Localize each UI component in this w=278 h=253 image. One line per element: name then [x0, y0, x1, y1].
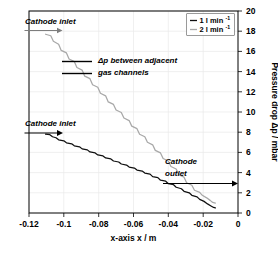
y-tick-label-4: 4	[246, 168, 251, 178]
x-tick-label-4: -0.04	[159, 219, 179, 229]
x-tick-label-6: 0	[236, 219, 241, 229]
annotation-cathode-inlet-upper: Cathode inlet	[25, 17, 76, 26]
y-tick-label-18: 18	[246, 26, 256, 36]
x-tick-label-5: -0.02	[194, 219, 214, 229]
y-tick-label-16: 16	[246, 46, 256, 56]
x-tick-label-3: -0.06	[124, 219, 144, 229]
x-tick-label-1: -0.1	[56, 219, 71, 229]
y-tick-label-6: 6	[246, 147, 251, 157]
series-line-1-l-min	[46, 134, 216, 208]
y-tick-label-20: 20	[246, 6, 256, 16]
y-tick-label-12: 12	[246, 87, 256, 97]
legend-label-2-l-min: 2 l min	[200, 25, 224, 34]
x-tick-label-2: -0.08	[89, 219, 109, 229]
legend-sup-1-l-min: -1	[226, 15, 231, 21]
y-tick-label-14: 14	[246, 67, 256, 77]
x-tick-labels: -0.12 -0.1 -0.08 -0.06 -0.04 -0.02 0	[19, 219, 240, 229]
annotation-cathode-outlet-line2: outlet	[165, 169, 187, 178]
legend-sup-2-l-min: -1	[226, 24, 231, 30]
annotation-delta-p-line1: Δp between adjacent	[97, 56, 178, 65]
y-tick-label-2: 2	[246, 188, 251, 198]
annotation-delta-p-line2: gas channels	[97, 68, 149, 77]
legend-label-1-l-min: 1 l min	[200, 16, 224, 25]
arrow-cathode-inlet-upper	[25, 28, 63, 33]
y-tickmarks	[238, 11, 242, 213]
x-tick-label-0: -0.12	[19, 219, 39, 229]
y-tick-labels: 20 18 16 14 12 10 8 6 4 2 0	[246, 6, 256, 218]
y-tick-label-0: 0	[246, 208, 251, 218]
arrow-cathode-inlet-lower	[25, 130, 64, 136]
y-axis-title: Pressure drop Δp / mbar	[270, 62, 278, 162]
x-tickmarks	[29, 213, 238, 217]
chart-container: 1 l min -1 2 l min -1 Cathode inlet Δp b…	[0, 0, 278, 253]
annotation-cathode-inlet-lower: Cathode inlet	[25, 119, 76, 128]
pressure-drop-chart: 1 l min -1 2 l min -1 Cathode inlet Δp b…	[0, 0, 278, 253]
annotation-cathode-outlet-line1: Cathode	[165, 157, 198, 166]
x-axis-title: x-axis x / m	[111, 233, 157, 243]
legend[interactable]: 1 l min -1 2 l min -1	[187, 14, 235, 36]
y-tick-label-10: 10	[246, 107, 256, 117]
y-tick-label-8: 8	[246, 127, 251, 137]
